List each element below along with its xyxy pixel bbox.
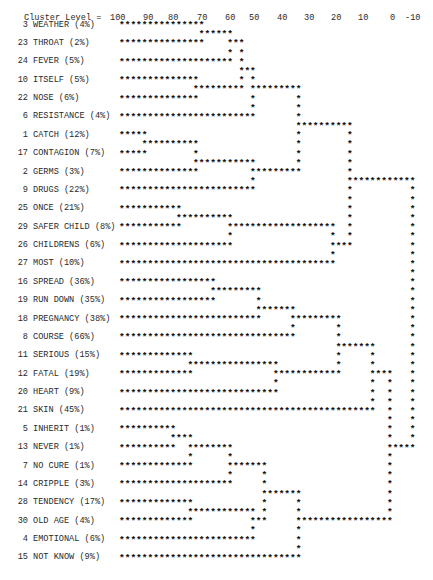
leaf-label: FATAL (19%) (33, 370, 90, 379)
leaf-number: 17 (9, 149, 28, 158)
leaf-label: SAFER CHILD (8%) (33, 223, 116, 232)
leaf-label: NO CURE (1%) (33, 462, 95, 471)
leaf-number: 22 (9, 94, 28, 103)
leaf-label: ITSELF (5%) (33, 76, 90, 85)
leaf-label: NEVER (1%) (33, 443, 85, 452)
leaf-label: CRIPPLE (3%) (33, 480, 95, 489)
leaf-label: GERMS (3%) (33, 168, 85, 177)
leaf-number: 15 (9, 553, 28, 562)
leaf-label: OLD AGE (4%) (33, 517, 95, 526)
leaf-number: 8 (9, 333, 28, 342)
leaf-number: 25 (9, 204, 28, 213)
leaf-number: 30 (9, 517, 28, 526)
leaf-label: DRUGS (22%) (33, 186, 90, 195)
leaf-number: 24 (9, 57, 28, 66)
leaf-number: 16 (9, 278, 28, 287)
leaf-number: 20 (9, 388, 28, 397)
tree-line: ******************************** (119, 554, 301, 563)
leaf-label: HEART (9%) (33, 388, 85, 397)
leaf-number: 12 (9, 370, 28, 379)
leaf-number: 28 (9, 498, 28, 507)
leaf-label: ONCE (21%) (33, 204, 85, 213)
leaf-number: 18 (9, 315, 28, 324)
leaf-number: 21 (9, 406, 28, 415)
leaf-label: SPREAD (36%) (33, 278, 95, 287)
dendrogram-figure: Cluster Level = 100 90 80 70 60 50 40 30… (0, 0, 433, 580)
leaf-label: MOST (10%) (33, 259, 85, 268)
leaf-label: NOT KNOW (9%) (33, 553, 100, 562)
leaf-number: 10 (9, 76, 28, 85)
leaf-label: SKIN (45%) (33, 406, 85, 415)
leaf-number: 5 (9, 425, 28, 434)
leaf-label: PREGNANCY (38%) (33, 315, 110, 324)
leaf-label: WEATHER (4%) (33, 21, 95, 30)
leaf-label: CONTAGION (7%) (33, 149, 105, 158)
leaf-number: 3 (9, 21, 28, 30)
leaf-row: 15NOT KNOW (9%)*************************… (0, 554, 433, 563)
leaf-label: FEVER (5%) (33, 57, 85, 66)
leaf-number: 4 (9, 535, 28, 544)
leaf-number: 6 (9, 112, 28, 121)
leaf-label: COURSE (66%) (33, 333, 95, 342)
leaf-label: RUN DOWN (35%) (33, 296, 105, 305)
leaf-number: 9 (9, 186, 28, 195)
leaf-number: 13 (9, 443, 28, 452)
leaf-label: CATCH (12%) (33, 131, 90, 140)
leaf-label: TENDENCY (17%) (33, 498, 105, 507)
leaf-label: INHERIT (1%) (33, 425, 95, 434)
leaf-number: 19 (9, 296, 28, 305)
leaf-label: CHILDRENS (6%) (33, 241, 105, 250)
leaf-number: 14 (9, 480, 28, 489)
leaf-number: 1 (9, 131, 28, 140)
leaf-number: 2 (9, 168, 28, 177)
leaf-number: 29 (9, 223, 28, 232)
leaf-label: THROAT (2%) (33, 39, 90, 48)
leaf-number: 23 (9, 39, 28, 48)
dendrogram-body: 3WEATHER (4%)*************** ****** 23TH… (0, 21, 433, 563)
leaf-label: NOSE (6%) (33, 94, 79, 103)
leaf-label: EMOTIONAL (6%) (33, 535, 105, 544)
leaf-label: RESISTANCE (4%) (33, 112, 110, 121)
leaf-label: SERIOUS (15%) (33, 351, 100, 360)
leaf-number: 11 (9, 351, 28, 360)
leaf-number: 7 (9, 462, 28, 471)
leaf-number: 27 (9, 259, 28, 268)
leaf-number: 26 (9, 241, 28, 250)
